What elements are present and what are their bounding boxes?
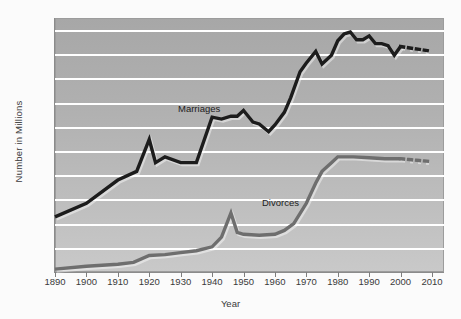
gridline [55, 175, 444, 177]
x-tick-label: 2000 [390, 276, 411, 287]
x-tick-mark [118, 272, 119, 277]
gridline [55, 224, 444, 226]
x-tick-label: 1980 [327, 276, 348, 287]
x-axis-line [54, 272, 444, 273]
gridline [55, 54, 444, 56]
x-tick-label: 1940 [202, 276, 223, 287]
x-tick-mark [181, 272, 182, 277]
x-tick-label: 1900 [76, 276, 97, 287]
x-tick-label: 1970 [296, 276, 317, 287]
x-tick-label: 2010 [421, 276, 442, 287]
series-label-marriages: Marriages [178, 103, 220, 114]
x-tick-label: 1990 [359, 276, 380, 287]
chart-figure: Number in Millions Marriages Divorces Ye… [0, 0, 461, 319]
gridline [55, 199, 444, 201]
plot-area [55, 18, 444, 272]
x-tick-mark [55, 272, 56, 277]
x-tick-mark [369, 272, 370, 277]
x-tick-mark [432, 272, 433, 277]
gridline [55, 30, 444, 32]
x-tick-mark [212, 272, 213, 277]
x-tick-mark [149, 272, 150, 277]
x-tick-mark [275, 272, 276, 277]
x-tick-mark [86, 272, 87, 277]
x-tick-mark [306, 272, 307, 277]
x-tick-label: 1930 [170, 276, 191, 287]
x-tick-label: 1910 [107, 276, 128, 287]
x-tick-mark [338, 272, 339, 277]
gridline [55, 103, 444, 105]
gridline [55, 151, 444, 153]
series-label-divorces: Divorces [262, 197, 299, 208]
gridline [55, 248, 444, 250]
x-tick-label: 1890 [44, 276, 65, 287]
y-axis-title: Number in Millions [13, 72, 24, 212]
x-axis-title: Year [0, 298, 461, 309]
x-tick-mark [401, 272, 402, 277]
x-tick-label: 1960 [264, 276, 285, 287]
x-tick-label: 1920 [139, 276, 160, 287]
gridline [55, 78, 444, 80]
x-tick-label: 1950 [233, 276, 254, 287]
x-tick-mark [244, 272, 245, 277]
gridline [55, 127, 444, 129]
